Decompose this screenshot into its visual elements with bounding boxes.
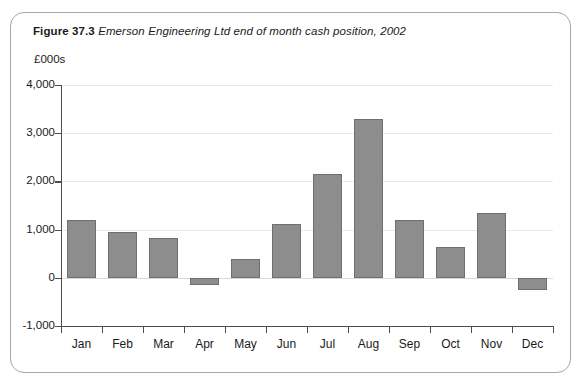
gridline <box>61 181 553 182</box>
y-axis-tick-label: 2,000 <box>11 175 55 186</box>
x-axis-label-sep: Sep <box>389 337 430 351</box>
x-axis-tick <box>61 326 62 333</box>
x-axis-label-dec: Dec <box>512 337 553 351</box>
bar <box>67 220 96 278</box>
x-axis-tick <box>553 326 554 333</box>
x-axis-tick <box>512 326 513 333</box>
x-axis-label-jul: Jul <box>307 337 348 351</box>
x-axis-tick <box>471 326 472 333</box>
y-axis-tick-label: 0 <box>11 272 55 283</box>
bar <box>518 278 547 290</box>
x-axis-tick <box>430 326 431 333</box>
x-axis-label-jun: Jun <box>266 337 307 351</box>
y-axis-tick-label: 1,000 <box>11 224 55 235</box>
bar <box>313 174 342 278</box>
x-axis-tick <box>143 326 144 333</box>
y-axis-tick <box>55 230 62 231</box>
y-axis-tick-label: 4,000 <box>11 79 55 90</box>
bar <box>354 119 383 278</box>
x-axis-label-may: May <box>225 337 266 351</box>
y-axis-unit-label: £000s <box>34 53 65 65</box>
gridline <box>61 278 553 279</box>
bar <box>231 259 260 278</box>
bar <box>436 247 465 278</box>
bar <box>108 232 137 278</box>
y-axis-tick <box>55 133 62 134</box>
bar <box>272 224 301 278</box>
gridline <box>61 85 553 86</box>
bar <box>149 238 178 278</box>
x-axis-label-apr: Apr <box>184 337 225 351</box>
x-axis-label-oct: Oct <box>430 337 471 351</box>
x-axis-tick <box>389 326 390 333</box>
gridline <box>61 133 553 134</box>
y-axis-tick-label: -1,000 <box>11 320 55 331</box>
x-axis-tick <box>266 326 267 333</box>
x-axis-label-mar: Mar <box>143 337 184 351</box>
x-axis-tick <box>348 326 349 333</box>
bar <box>395 220 424 277</box>
x-axis-label-aug: Aug <box>348 337 389 351</box>
x-axis-label-nov: Nov <box>471 337 512 351</box>
x-axis-tick <box>184 326 185 333</box>
bar <box>190 278 219 285</box>
y-axis-tick <box>55 181 62 182</box>
x-axis-tick <box>225 326 226 333</box>
bar <box>477 213 506 278</box>
x-axis-tick <box>307 326 308 333</box>
plot-area <box>61 85 553 326</box>
y-axis-tick-label: 3,000 <box>11 127 55 138</box>
x-axis-label-jan: Jan <box>61 337 102 351</box>
bar-chart: £000s -1,00001,0002,0003,0004,000 JanFeb… <box>11 13 572 374</box>
x-axis-tick <box>102 326 103 333</box>
x-axis-label-feb: Feb <box>102 337 143 351</box>
y-axis-line <box>61 85 62 327</box>
y-axis-tick <box>55 278 62 279</box>
y-axis-tick <box>55 85 62 86</box>
figure-frame: Figure 37.3 Emerson Engineering Ltd end … <box>10 12 571 373</box>
